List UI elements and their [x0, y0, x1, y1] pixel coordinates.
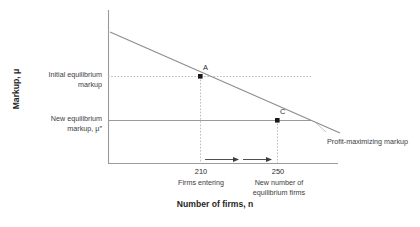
point-c-label: C	[280, 107, 285, 116]
x-tick-label-210: 210	[181, 167, 221, 176]
new-number-equilibrium-firms-label: New number of equilibrium firms	[243, 178, 315, 197]
profit-maximizing-markup-label: Profit-maximizing markup	[327, 137, 408, 146]
profit-maximizing-markup-curve	[110, 32, 340, 133]
point-a-label: A	[203, 63, 208, 72]
firms-entering-label: Firms entering	[163, 178, 239, 188]
initial-equilibrium-markup-label: Initial equilibrium markup	[18, 70, 102, 89]
x-axis-title: Number of firms, n	[120, 199, 310, 209]
firms-entering-arrow-2-head	[266, 157, 272, 162]
point-c-marker	[275, 118, 280, 123]
new-equilibrium-markup-label: New equilibrium markup, μ″	[18, 114, 102, 133]
point-a-marker	[198, 74, 203, 79]
firms-entering-arrow-group	[205, 157, 272, 162]
firms-entering-arrow-1-head	[233, 157, 239, 162]
x-tick-label-250: 250	[258, 167, 298, 176]
markup-firms-diagram: Markup, μ Number of firms, n Initial equ…	[0, 0, 420, 227]
